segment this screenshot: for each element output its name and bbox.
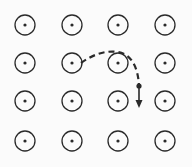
field-out-of-page-icon [108,53,128,73]
field-out-of-page-icon [15,91,35,111]
field-out-of-page-icon [155,15,175,35]
field-out-of-page-icon [62,91,82,111]
field-out-of-page-icon [15,15,35,35]
field-out-of-page-icon [62,15,82,35]
field-out-of-page-icon [108,131,128,151]
field-out-of-page-icon [155,53,175,73]
field-out-of-page-icon [15,53,35,73]
magnetic-field-diagram [0,0,192,167]
field-out-of-page-icon [155,131,175,151]
field-out-of-page-icon [155,91,175,111]
field-out-of-page-icon [108,15,128,35]
field-out-of-page-icon [62,53,82,73]
field-grid [15,15,175,151]
field-out-of-page-icon [108,91,128,111]
field-out-of-page-icon [62,131,82,151]
field-out-of-page-icon [15,131,35,151]
arrowhead-icon [136,100,143,108]
